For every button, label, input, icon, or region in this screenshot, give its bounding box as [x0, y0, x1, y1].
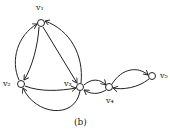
label-v5: v₅ — [160, 72, 168, 80]
label-v1: v₁ — [36, 4, 44, 12]
edge-v3-v2 — [23, 88, 80, 111]
node-v3 — [77, 84, 84, 91]
edge-v4-v5 — [112, 70, 148, 84]
edge-v1-v3 — [43, 27, 77, 83]
edge-v1-v2 — [24, 27, 39, 80]
graph-canvas — [0, 0, 170, 132]
node-v2 — [18, 81, 25, 88]
edge-v3-v1 — [45, 21, 81, 83]
figure-caption: (b) — [74, 117, 87, 127]
node-v5 — [149, 73, 156, 80]
label-v2: v₂ — [3, 80, 11, 88]
edge-v2-v1 — [15, 24, 37, 80]
node-v4 — [106, 84, 113, 91]
edge-v4-v3 — [84, 90, 106, 93]
label-v4: v₄ — [106, 97, 114, 105]
node-v1 — [38, 20, 45, 27]
edge-v5-v4 — [113, 79, 149, 89]
edge-v3-v4 — [84, 80, 106, 85]
label-v3: v₃ — [64, 80, 72, 88]
